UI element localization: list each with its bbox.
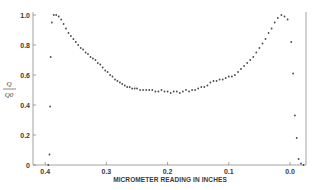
y-tick-label: 0 (26, 162, 30, 169)
data-point (99, 64, 101, 66)
y-label-numerator: Q (6, 80, 11, 88)
data-point (47, 164, 49, 166)
y-tick-label: 0.2 (20, 132, 30, 139)
data-point (188, 91, 190, 93)
data-point (243, 65, 245, 67)
data-point (129, 86, 131, 88)
data-point (63, 23, 65, 25)
data-point (142, 89, 144, 91)
data-point (85, 52, 87, 54)
data-point (185, 89, 187, 91)
data-point (126, 86, 128, 88)
y-ticks: 00.20.40.60.81.0 (20, 12, 36, 169)
y-axis: 00.20.40.60.81.0 (20, 12, 36, 169)
data-point (49, 106, 51, 108)
data-point (225, 77, 227, 79)
data-point (97, 62, 99, 64)
data-point (139, 89, 141, 91)
data-point (82, 49, 84, 51)
data-point (121, 83, 123, 85)
x-ticks: 0.40.30.20.10.0 (40, 162, 295, 175)
y-tick-label: 0.6 (20, 72, 30, 79)
data-point (252, 56, 254, 58)
data-point (290, 41, 292, 43)
data-point (164, 91, 166, 93)
data-point (262, 43, 264, 45)
data-point (294, 115, 296, 117)
data-point (246, 62, 248, 64)
chart: 00.20.40.60.81.0 0.40.30.20.10.0 Q Q0 MI… (0, 0, 314, 190)
data-point (107, 71, 109, 73)
data-point (77, 44, 79, 46)
x-tick-label: 0.0 (285, 168, 295, 175)
data-point (228, 76, 230, 78)
y-tick-label: 1.0 (20, 12, 30, 19)
data-point (237, 71, 239, 73)
data-point (148, 89, 150, 91)
data-point (219, 79, 221, 81)
data-point (49, 154, 51, 156)
data-point (259, 47, 261, 49)
data-point (119, 82, 121, 84)
data-point (298, 158, 300, 160)
y-axis-label: Q Q0 (3, 80, 16, 99)
data-point (50, 56, 52, 58)
data-point (58, 16, 60, 18)
data-point (296, 137, 298, 139)
y-label-denominator: Q0 (5, 91, 14, 99)
x-tick-label: 0.1 (224, 168, 234, 175)
data-point (170, 92, 172, 94)
data-point (231, 76, 233, 78)
data-point (216, 80, 218, 82)
x-axis-title: MICROMETER READING IN INCHES (113, 176, 227, 183)
data-point (131, 88, 133, 90)
data-point (145, 89, 147, 91)
data-point (68, 32, 70, 34)
data-point (167, 91, 169, 93)
data-point (173, 91, 175, 93)
x-axis: 0.40.30.20.10.0 (33, 12, 306, 175)
data-point (109, 74, 111, 76)
data-point (234, 74, 236, 76)
data-point (197, 88, 199, 90)
data-point (134, 88, 136, 90)
data-point (158, 91, 160, 93)
data-point (207, 85, 209, 87)
data-point (90, 56, 92, 58)
data-point (55, 14, 57, 16)
data-point (277, 17, 279, 19)
data-point (104, 70, 106, 72)
data-point (151, 89, 153, 91)
data-point (102, 67, 104, 69)
data-point (182, 91, 184, 93)
data-point (155, 91, 157, 93)
data-point (287, 19, 289, 21)
data-point (303, 164, 305, 166)
data-point (179, 92, 181, 94)
data-point (124, 85, 126, 87)
data-point (240, 68, 242, 70)
data-point (112, 76, 114, 78)
y-tick-label: 0.4 (20, 102, 30, 109)
data-point (80, 47, 82, 49)
data-point (274, 22, 276, 24)
data-point (300, 163, 302, 165)
data-point (292, 73, 294, 75)
data-point (191, 89, 193, 91)
data-point (265, 38, 267, 40)
data-point (136, 88, 138, 90)
data-point (213, 80, 215, 82)
data-point (249, 59, 251, 61)
data-point (114, 79, 116, 81)
data-point (92, 58, 94, 60)
data-point (210, 82, 212, 84)
data-point (117, 80, 119, 82)
data-point (70, 35, 72, 37)
data-point (95, 59, 97, 61)
data-point (176, 91, 178, 93)
data-point (284, 16, 286, 18)
data-point (200, 86, 202, 88)
data-point (203, 86, 205, 88)
data-point (53, 14, 55, 16)
x-tick-label: 0.2 (163, 168, 173, 175)
